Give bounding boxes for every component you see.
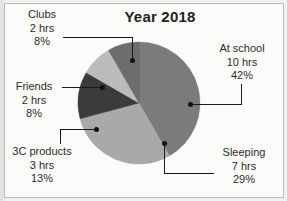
leader-line-at-school-riser [241, 84, 242, 104]
leader-dot-sleeping [162, 141, 167, 146]
callout-clubs-name: Clubs [14, 8, 70, 22]
callout-friends-name: Friends [6, 80, 62, 94]
pie-svg [77, 41, 201, 165]
leader-dot-3c-products [94, 127, 99, 132]
chart-title: Year 2018 [95, 8, 225, 25]
pie-graphic [77, 41, 201, 165]
callout-sleeping-name: Sleeping [213, 146, 275, 160]
callout-3c-products-name: 3C products [6, 145, 78, 159]
callout-3c-products-hours: 3 hrs [6, 159, 78, 173]
leader-line-3c-products [60, 129, 97, 130]
callout-at-school-percent: 42% [208, 69, 276, 83]
leader-dot-clubs [130, 58, 135, 63]
callout-3c-products: 3C products 3 hrs 13% [6, 145, 78, 186]
callout-sleeping-percent: 29% [213, 173, 275, 187]
leader-dot-at-school [188, 102, 193, 107]
leader-dot-friends [100, 85, 105, 90]
pie-chart-screenshot: Year 2018 Clubs [0, 0, 287, 201]
callout-at-school: At school 10 hrs 42% [208, 42, 276, 83]
callout-sleeping-hours: 7 hrs [213, 160, 275, 174]
callout-clubs-hours: 2 hrs [14, 22, 70, 36]
callout-friends-percent: 8% [6, 107, 62, 121]
leader-line-friends [62, 87, 102, 88]
callout-friends-hours: 2 hrs [6, 94, 62, 108]
leader-line-clubs [63, 37, 132, 38]
callout-friends: Friends 2 hrs 8% [6, 80, 62, 121]
leader-line-at-school [191, 104, 242, 105]
leader-line-clubs-drop [132, 37, 133, 60]
leader-line-sleeping-riser [164, 143, 165, 173]
callout-3c-products-percent: 13% [6, 172, 78, 186]
callout-at-school-name: At school [208, 42, 276, 56]
leader-line-sleeping [164, 173, 214, 174]
callout-clubs: Clubs 2 hrs 8% [14, 8, 70, 49]
callout-sleeping: Sleeping 7 hrs 29% [213, 146, 275, 187]
callout-clubs-percent: 8% [14, 35, 70, 49]
callout-at-school-hours: 10 hrs [208, 56, 276, 70]
leader-line-3c-products-riser [60, 129, 61, 144]
